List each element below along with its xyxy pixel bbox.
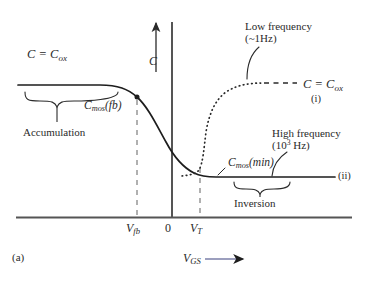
high-frequency-label: High frequency (103 Hz) [272,127,341,152]
cmos-fb-marker-dot [135,95,140,100]
cmos-min-label: Cmos(min) [228,156,274,171]
low-frequency-label: Low frequency (~1Hz) [245,20,312,45]
curve-marker-ii: (ii) [338,170,351,182]
cox-label-right: C = Cox [303,77,343,93]
low-frequency-leader [247,47,259,79]
inversion-label: Inversion [234,197,276,209]
x-tick-vfb: Vfb [126,222,140,237]
inversion-brace [234,182,290,194]
curve-marker-i: (i) [311,93,321,105]
high-frequency-leader [272,152,287,176]
x-tick-zero: 0 [165,222,171,235]
vgs-axis-label: VGS [183,252,201,267]
cmos-min-leader [218,168,225,175]
cmos-fb-label: Cmos(fb) [84,99,122,114]
accumulation-label: Accumulation [23,126,85,138]
panel-label: (a) [12,251,24,263]
x-tick-vt: VT [190,222,202,237]
cox-label-left: C = Cox [27,47,67,63]
c-axis-label: C [149,55,157,68]
